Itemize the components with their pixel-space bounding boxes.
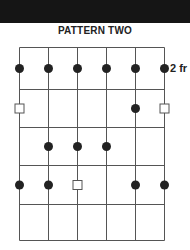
note-dot-icon xyxy=(160,181,169,190)
note-dot-icon xyxy=(44,142,53,151)
note-dot-icon xyxy=(73,64,82,73)
fret-position-label: 2 fr xyxy=(170,62,187,74)
note-dot-icon xyxy=(131,104,140,113)
note-dot-icon xyxy=(73,142,82,151)
root-square-icon xyxy=(15,104,24,113)
note-dot-icon xyxy=(160,64,169,73)
root-square-icon xyxy=(73,181,82,190)
note-dot-icon xyxy=(15,181,24,190)
note-dot-icon xyxy=(44,64,53,73)
note-dot-icon xyxy=(102,64,111,73)
note-dot-icon xyxy=(131,64,140,73)
note-dot-icon xyxy=(131,181,140,190)
fretboard-diagram xyxy=(0,0,190,250)
note-dot-icon xyxy=(44,181,53,190)
root-square-icon xyxy=(160,104,169,113)
note-dot-icon xyxy=(15,64,24,73)
note-dot-icon xyxy=(102,142,111,151)
